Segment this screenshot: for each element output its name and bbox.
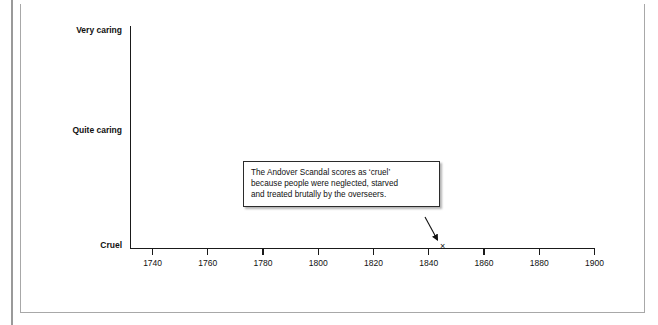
x-axis-tick [152,249,153,255]
data-point-marker: × [440,241,445,250]
x-axis-tick [483,249,484,255]
annotation-callout-text: The Andover Scandal scores as ‘cruel’ be… [251,167,432,201]
x-axis-tick [262,249,263,255]
x-axis-tick [594,249,595,255]
x-axis-tick [428,249,429,255]
figure-container: Very caring Quite caring Cruel 174017601… [0,0,658,325]
x-axis-tick [207,249,208,255]
y-axis-label-cruel: Cruel [0,240,122,250]
x-axis-tick-label: 1740 [133,258,173,269]
x-axis-tick [318,249,319,255]
x-axis-tick-label: 1800 [298,258,338,269]
x-axis-tick-label: 1760 [188,258,228,269]
y-axis-label-very-caring: Very caring [0,25,122,35]
x-axis-tick-label: 1860 [464,258,504,269]
x-axis-tick-label: 1840 [409,258,449,269]
x-axis-tick-label: 1820 [354,258,394,269]
annotation-callout-box: The Andover Scandal scores as ‘cruel’ be… [243,161,440,207]
x-axis-tick-label: 1900 [575,258,615,269]
x-axis-tick-label: 1780 [243,258,283,269]
chart-plot-area: Very caring Quite caring Cruel 174017601… [0,0,658,325]
y-axis-label-quite-caring: Quite caring [0,125,122,135]
x-axis-line [130,248,595,249]
y-axis-line [130,26,131,249]
x-axis-tick [539,249,540,255]
x-axis-tick-label: 1880 [519,258,559,269]
x-axis-tick [373,249,374,255]
